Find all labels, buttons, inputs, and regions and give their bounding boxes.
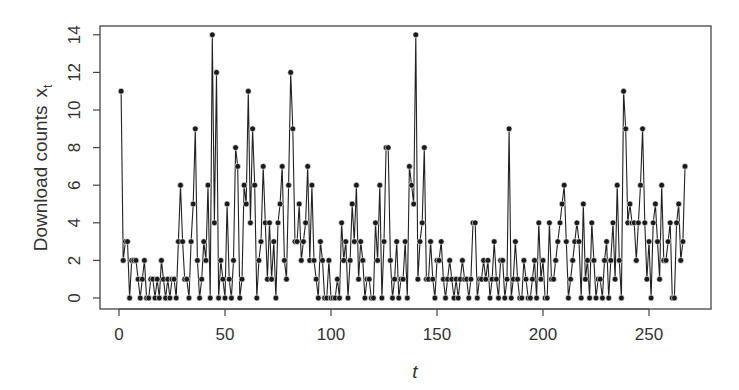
data-point xyxy=(508,295,514,301)
data-point xyxy=(644,276,650,282)
data-point xyxy=(506,126,512,132)
x-axis-title: t xyxy=(412,361,418,382)
data-point xyxy=(358,239,364,245)
y-axis: 02468101214 xyxy=(65,25,100,302)
data-point xyxy=(311,258,317,264)
data-point xyxy=(339,220,345,226)
data-point xyxy=(523,276,529,282)
y-tick-label: 4 xyxy=(65,218,84,227)
data-point xyxy=(551,276,557,282)
data-series xyxy=(118,32,688,301)
data-point xyxy=(633,258,639,264)
data-point xyxy=(534,295,540,301)
data-point xyxy=(650,220,656,226)
data-point xyxy=(133,258,139,264)
data-point xyxy=(583,276,589,282)
data-point xyxy=(209,32,215,38)
data-point xyxy=(284,276,290,282)
data-point xyxy=(589,220,595,226)
data-point xyxy=(496,295,502,301)
data-point xyxy=(483,276,489,282)
data-point xyxy=(472,220,478,226)
data-point xyxy=(540,258,546,264)
data-point xyxy=(381,239,387,245)
data-point xyxy=(301,239,307,245)
data-point xyxy=(460,258,466,264)
data-point xyxy=(544,295,550,301)
data-point xyxy=(570,258,576,264)
data-point xyxy=(513,239,519,245)
data-point xyxy=(125,239,131,245)
data-point xyxy=(167,295,173,301)
data-point xyxy=(574,220,580,226)
data-point xyxy=(337,295,343,301)
data-point xyxy=(154,276,160,282)
data-point xyxy=(248,220,254,226)
data-point xyxy=(137,295,143,301)
data-point xyxy=(642,220,648,226)
data-point xyxy=(343,239,349,245)
data-point xyxy=(345,295,351,301)
data-point xyxy=(254,295,260,301)
data-point xyxy=(602,258,608,264)
data-point xyxy=(430,276,436,282)
data-point xyxy=(260,164,266,170)
data-point xyxy=(156,295,162,301)
data-point xyxy=(680,239,686,245)
data-point xyxy=(267,220,273,226)
data-point xyxy=(578,295,584,301)
data-point xyxy=(269,276,275,282)
y-tick-label: 6 xyxy=(65,180,84,189)
data-point xyxy=(335,276,341,282)
data-point xyxy=(385,145,391,151)
y-axis-title-main: Download counts xyxy=(30,106,51,252)
data-point xyxy=(120,258,126,264)
data-point xyxy=(455,295,461,301)
data-point xyxy=(614,182,620,188)
data-point xyxy=(667,220,673,226)
data-point xyxy=(515,276,521,282)
data-point xyxy=(180,239,186,245)
data-point xyxy=(296,201,302,207)
data-point xyxy=(417,239,423,245)
data-point xyxy=(672,295,678,301)
data-point xyxy=(421,145,427,151)
data-point xyxy=(127,295,133,301)
data-point xyxy=(275,220,281,226)
data-point xyxy=(186,295,192,301)
data-point xyxy=(294,239,300,245)
data-point xyxy=(373,220,379,226)
data-point xyxy=(379,295,385,301)
data-point xyxy=(447,258,453,264)
data-point xyxy=(197,295,203,301)
data-point xyxy=(576,239,582,245)
data-point xyxy=(682,164,688,170)
y-tick-label: 14 xyxy=(65,25,84,44)
data-point xyxy=(568,276,574,282)
data-point xyxy=(604,239,610,245)
data-point xyxy=(553,258,559,264)
data-point xyxy=(226,276,232,282)
data-point xyxy=(500,258,506,264)
y-tick-label: 8 xyxy=(65,143,84,152)
data-point xyxy=(676,201,682,207)
x-tick-label: 100 xyxy=(317,325,345,344)
data-point xyxy=(394,239,400,245)
data-point xyxy=(375,258,381,264)
data-point xyxy=(243,201,249,207)
data-point xyxy=(214,70,220,76)
data-point xyxy=(659,182,665,188)
data-point xyxy=(587,295,593,301)
data-point xyxy=(347,258,353,264)
data-point xyxy=(349,201,355,207)
data-point xyxy=(400,276,406,282)
data-point xyxy=(504,276,510,282)
data-point xyxy=(360,258,366,264)
data-point xyxy=(356,276,362,282)
data-point xyxy=(619,295,625,301)
data-point xyxy=(428,239,434,245)
data-point xyxy=(413,32,419,38)
data-point xyxy=(538,276,544,282)
data-point xyxy=(606,295,612,301)
data-point xyxy=(432,295,438,301)
